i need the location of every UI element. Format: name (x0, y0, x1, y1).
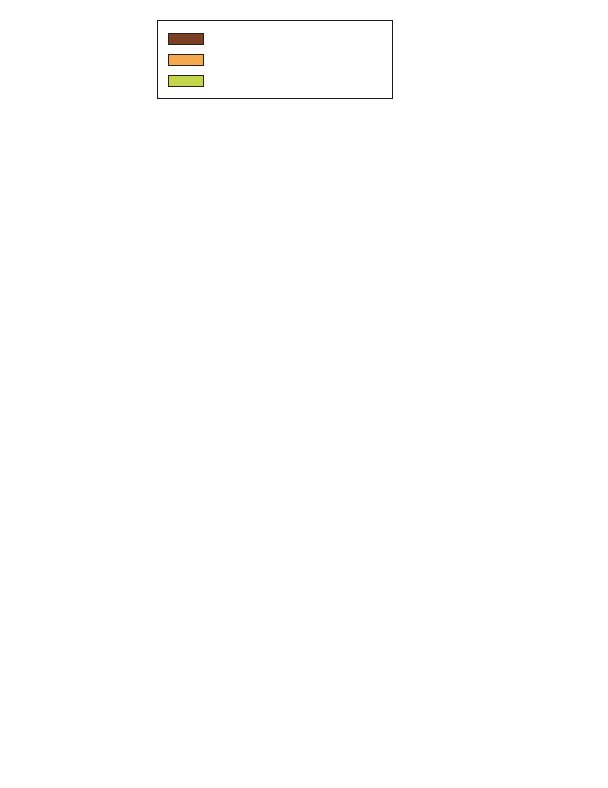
legend (157, 20, 393, 99)
legend-swatch-wy2015-wet (168, 54, 204, 66)
legend-item-wy2016-wet (168, 70, 380, 91)
plot-canvas (0, 0, 608, 788)
legend-swatch-wy2015 (168, 33, 204, 45)
figure-doc-load-and-yield (0, 0, 608, 788)
legend-item-wy2015 (168, 28, 380, 49)
legend-swatch-wy2016-wet (168, 75, 204, 87)
legend-item-wy2015-wet (168, 49, 380, 70)
